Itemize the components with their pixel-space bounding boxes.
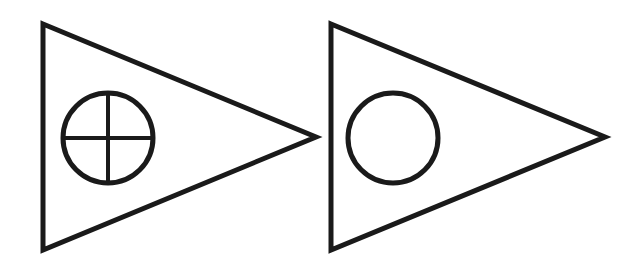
pennant-triangle-right (331, 24, 605, 250)
diagram-svg (0, 0, 644, 274)
diagram-canvas: Two pennant (right-pointing triangle) sy… (0, 0, 644, 274)
pennant-with-crossed-circle (43, 24, 316, 250)
pennant-with-circle (331, 24, 605, 250)
circle-icon (348, 93, 438, 183)
